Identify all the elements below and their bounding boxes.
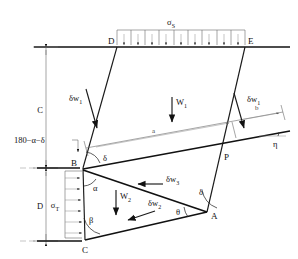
angle-label-beta: β [89, 215, 93, 225]
angle-label-theta: θ [176, 207, 180, 217]
angle-label-eta: η [273, 139, 277, 149]
angle-label-delta-B: δ [103, 153, 107, 163]
dimension-a-b-group: a b [84, 104, 285, 156]
point-label-D: D [108, 36, 115, 46]
point-label-A: A [211, 211, 218, 221]
angle-label-supplement: 180−α−δ [14, 135, 45, 145]
geotechnical-wedge-diagram: σS [0, 0, 298, 259]
line-E-A [207, 47, 245, 212]
point-label-B: B [71, 158, 77, 168]
line-D-B [83, 47, 117, 168]
point-label-C: C [82, 245, 88, 255]
velocity-label-dw3: δw3 [166, 174, 179, 186]
angle-label-alpha: α [93, 183, 98, 193]
dimension-label-D: D [37, 201, 43, 211]
velocity-label-dw1-left: δw1 [69, 93, 82, 105]
vector-dw1-left [86, 89, 97, 128]
figure-canvas: σS [0, 0, 298, 259]
velocity-label-dw2: δw2 [148, 198, 161, 210]
line-B-A [83, 170, 207, 212]
surcharge-load-group: σS [117, 17, 245, 45]
weight-label-W2: W2 [120, 191, 131, 203]
surcharge-label: σS [167, 17, 175, 29]
dimension-label-a: a [152, 127, 156, 135]
dimension-label-C: C [37, 105, 43, 115]
vector-dw2 [128, 211, 155, 220]
line-C-A [85, 212, 207, 240]
lateral-pressure-label: σT [51, 200, 60, 212]
weight-label-W1: W1 [176, 97, 187, 109]
vector-dw1-right [234, 93, 244, 128]
lateral-pressure-group: σT [51, 171, 82, 238]
point-label-E: E [248, 36, 254, 46]
angle-label-delta-A: δ [199, 187, 203, 197]
line-B-P-slope [83, 131, 290, 169]
point-label-P: P [224, 152, 229, 162]
velocity-label-dw1-right: δw1 [247, 94, 260, 106]
left-dimension-group: C D [33, 47, 58, 243]
line-B-C [83, 168, 85, 240]
